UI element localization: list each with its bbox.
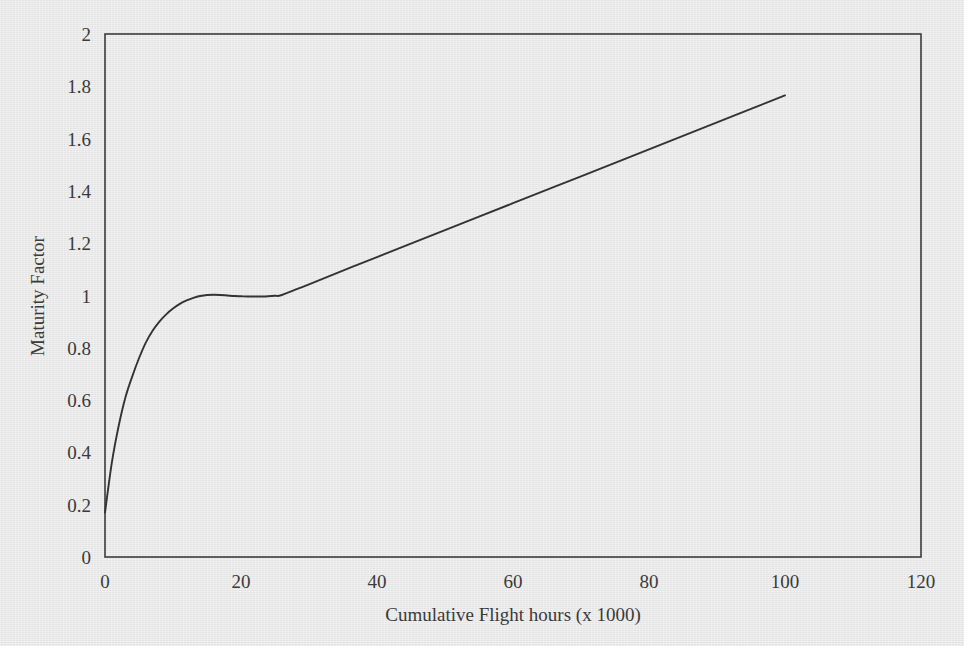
x-tick-label: 0: [100, 571, 110, 592]
maturity-factor-curve: [105, 95, 785, 512]
y-tick-label: 1: [82, 286, 92, 307]
y-tick-label: 0.4: [67, 442, 91, 463]
y-tick-label: 0.2: [67, 495, 91, 516]
y-tick-label: 0: [82, 547, 92, 568]
y-axis-title: Maturity Factor: [27, 235, 48, 355]
y-tick-label: 0.8: [67, 338, 91, 359]
y-tick-label: 2: [82, 24, 92, 45]
y-tick-label: 0.6: [67, 390, 91, 411]
y-tick-label: 1.2: [67, 233, 91, 254]
y-tick-label: 1.6: [67, 129, 91, 150]
x-tick-label: 60: [504, 571, 523, 592]
x-tick-label: 40: [368, 571, 387, 592]
y-tick-label: 1.4: [67, 181, 91, 202]
x-axis-title: Cumulative Flight hours (x 1000): [385, 604, 640, 626]
maturity-factor-line-chart: 00.20.40.60.811.21.41.61.82 020406080100…: [0, 0, 964, 646]
x-tick-label: 20: [232, 571, 251, 592]
y-tick-label: 1.8: [67, 76, 91, 97]
x-axis-tick-labels: 020406080100120: [100, 571, 935, 592]
y-axis-tick-labels: 00.20.40.60.811.21.41.61.82: [67, 24, 91, 568]
x-tick-label: 80: [640, 571, 659, 592]
x-tick-label: 120: [907, 571, 936, 592]
chart-figure: 00.20.40.60.811.21.41.61.82 020406080100…: [0, 0, 964, 646]
x-tick-label: 100: [771, 571, 800, 592]
